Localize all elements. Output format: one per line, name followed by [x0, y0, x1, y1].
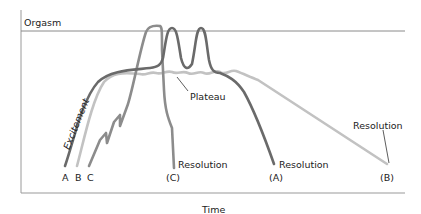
start-label-a: A	[62, 173, 69, 183]
resolution-c-label: Resolution	[178, 160, 228, 170]
resolution-b-label: Resolution	[353, 121, 403, 131]
orgasm-label: Orgasm	[24, 18, 61, 28]
start-label-b: B	[75, 173, 82, 183]
plateau-pointer	[177, 77, 188, 91]
plateau-label: Plateau	[190, 92, 226, 102]
start-label-c: C	[87, 173, 94, 183]
end-label-c: (C)	[166, 173, 180, 183]
resolution-a-label: Resolution	[279, 160, 329, 170]
end-label-b: (B)	[380, 173, 394, 183]
end-label-a: (A)	[269, 173, 283, 183]
resolution-b-pointer	[383, 130, 389, 163]
x-axis-label: Time	[202, 205, 225, 214]
curve-c	[89, 26, 174, 168]
